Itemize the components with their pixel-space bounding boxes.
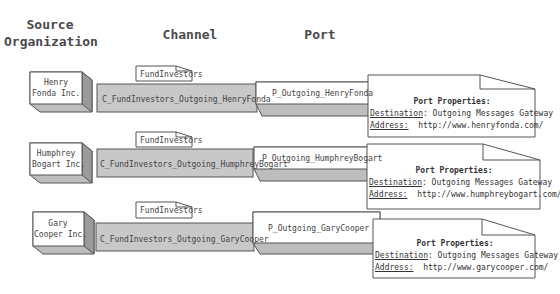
port-humphrey-bogart[interactable]: P_Outgoing_HumphreyBogart	[262, 153, 382, 164]
port-henry-fonda[interactable]: P_Outgoing_HenryFonda	[272, 88, 373, 99]
port-properties-gary-cooper: Port Properties: Destination: Outgoing M…	[375, 238, 535, 274]
address-value[interactable]: http://www.henryfonda.com/	[418, 121, 543, 130]
org-line1: Gary	[48, 219, 67, 228]
port-properties-humphrey-bogart: Port Properties: Destination: Outgoing M…	[369, 165, 539, 201]
channel-tag[interactable]: FundInvestors	[140, 135, 203, 146]
destination-label: Destination	[369, 178, 422, 187]
org-line1: Humphrey	[37, 149, 76, 158]
props-title: Port Properties:	[369, 165, 539, 177]
channel-gary-cooper[interactable]: C_FundInvestors_Outgoing_GaryCooper	[100, 234, 269, 245]
org-line2: Bogart Inc.	[32, 160, 85, 169]
channel-tag[interactable]: FundInvestors	[140, 205, 203, 216]
address-label: Address:	[375, 263, 414, 272]
address-value[interactable]: http://www.humphreybogart.com/	[417, 190, 560, 199]
destination-value: : Outgoing Messages Gateway	[423, 109, 553, 118]
port-gary-cooper[interactable]: P_Outgoing_GaryCooper	[268, 223, 369, 234]
props-title: Port Properties:	[370, 96, 534, 108]
channel-tag[interactable]: FundInvestors	[140, 69, 203, 80]
org-line1: Henry	[44, 78, 68, 87]
address-value[interactable]: http://www.garycooper.com/	[423, 263, 548, 272]
org-line2: Cooper Inc.	[34, 230, 87, 239]
address-label: Address:	[369, 190, 408, 199]
destination-value: : Outgoing Messages Gateway	[428, 251, 558, 260]
channel-humphrey-bogart[interactable]: C_FundInvestors_Outgoing_HumphreyBogart	[100, 159, 288, 170]
org-henry-fonda[interactable]: Henry Fonda Inc.	[32, 77, 80, 99]
org-humphrey-bogart[interactable]: Humphrey Bogart Inc.	[32, 148, 80, 170]
destination-label: Destination	[370, 109, 423, 118]
org-gary-cooper[interactable]: Gary Cooper Inc.	[34, 218, 82, 240]
destination-label: Destination	[375, 251, 428, 260]
port-properties-henry-fonda: Port Properties: Destination: Outgoing M…	[370, 96, 534, 132]
destination-value: : Outgoing Messages Gateway	[422, 178, 552, 187]
org-line2: Fonda Inc.	[32, 89, 80, 98]
props-title: Port Properties:	[375, 238, 535, 250]
channel-henry-fonda[interactable]: C_FundInvestors_Outgoing_HenryFonda	[102, 94, 271, 105]
address-label: Address:	[370, 121, 409, 130]
